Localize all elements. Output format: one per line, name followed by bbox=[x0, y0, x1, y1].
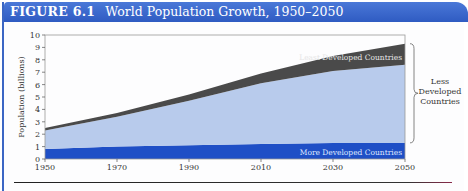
y-tick-label: 9 bbox=[35, 43, 40, 52]
less-developed-area bbox=[45, 65, 405, 149]
x-tick-label: 2030 bbox=[323, 163, 343, 172]
y-tick-label: 6 bbox=[35, 81, 40, 90]
y-tick-label: 5 bbox=[35, 93, 40, 102]
y-tick-label: 3 bbox=[35, 118, 40, 127]
least-developed-label: Least Developed Countries bbox=[299, 53, 402, 62]
bracket-icon bbox=[410, 44, 418, 143]
x-tick-label: 1970 bbox=[107, 163, 127, 172]
y-tick-label: 7 bbox=[35, 68, 40, 77]
x-tick-label: 1950 bbox=[35, 163, 55, 172]
x-tick-label: 2010 bbox=[251, 163, 271, 172]
brace-label-line1: Less bbox=[431, 77, 449, 86]
y-tick-label: 2 bbox=[35, 130, 40, 139]
bottom-rule bbox=[14, 182, 452, 183]
more-developed-label: More Developed Countries bbox=[300, 148, 402, 157]
x-tick-label: 2050 bbox=[395, 163, 415, 172]
y-tick-label: 8 bbox=[35, 56, 40, 65]
y-tick-label: 1 bbox=[35, 143, 40, 152]
x-tick-label: 1990 bbox=[179, 163, 199, 172]
brace-label-line3: Countries bbox=[420, 97, 460, 106]
y-tick-label: 10 bbox=[30, 31, 40, 40]
brace-label-line2: Developed bbox=[419, 87, 462, 96]
y-tick-label: 4 bbox=[35, 105, 40, 114]
y-axis-label: Population (billions) bbox=[17, 56, 26, 137]
